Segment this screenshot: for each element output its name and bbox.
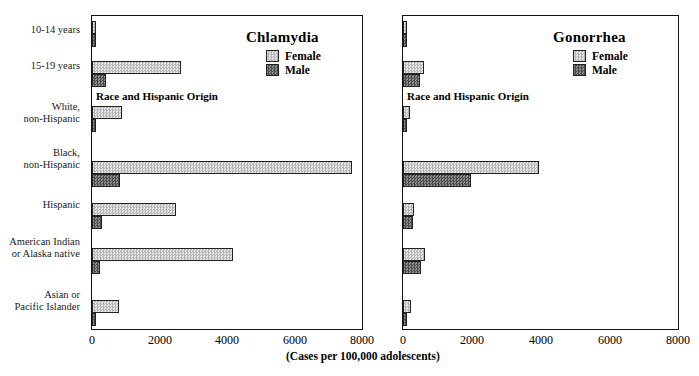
legend-item-male: Male bbox=[266, 64, 321, 76]
legend-label-male: Male bbox=[285, 64, 310, 76]
legend-gonorrhea: Gonorrhea Female Male bbox=[551, 29, 628, 78]
xtick-label: 8000 bbox=[340, 333, 384, 348]
chart-panel-gonorrhea: Race and Hispanic Origin Gonorrhea Femal… bbox=[402, 15, 679, 330]
bar-female bbox=[92, 161, 352, 174]
xtick-label: 0 bbox=[381, 333, 425, 348]
xtick-label: 2000 bbox=[450, 333, 494, 348]
x-axis-caption: (Cases per 100,000 adolescents) bbox=[286, 350, 440, 362]
legend-swatch-female-icon bbox=[266, 50, 279, 62]
category-label: White, non-Hispanic bbox=[23, 101, 80, 124]
bar-male bbox=[403, 119, 407, 132]
bar-female bbox=[92, 248, 233, 261]
bar-male bbox=[92, 119, 96, 132]
bar-male bbox=[92, 313, 96, 326]
group-heading-race: Race and Hispanic Origin bbox=[407, 90, 529, 102]
category-label: Asian or Pacific Islander bbox=[14, 289, 80, 312]
bar-female bbox=[403, 300, 411, 313]
bar-female bbox=[92, 106, 122, 119]
chart-title-chlamydia: Chlamydia bbox=[244, 29, 321, 46]
bar-male bbox=[92, 261, 100, 274]
plot-area-chlamydia bbox=[92, 16, 362, 329]
legend-item-male: Male bbox=[573, 64, 628, 76]
legend-swatch-male-icon bbox=[573, 64, 586, 76]
chart-panel-chlamydia: Race and Hispanic Origin Chlamydia Femal… bbox=[91, 15, 363, 330]
legend-item-female: Female bbox=[573, 50, 628, 62]
plot-area-gonorrhea bbox=[403, 16, 678, 329]
legend-item-female: Female bbox=[266, 50, 321, 62]
legend-label-male: Male bbox=[592, 64, 617, 76]
category-label: 15-19 years bbox=[31, 60, 80, 72]
xtick-label: 6000 bbox=[273, 333, 317, 348]
xtick-label: 4000 bbox=[205, 333, 249, 348]
bar-female bbox=[92, 21, 96, 34]
xtick-label: 4000 bbox=[519, 333, 563, 348]
bar-female bbox=[92, 300, 119, 313]
category-label: 10-14 years bbox=[31, 24, 80, 36]
xtick-label: 6000 bbox=[588, 333, 632, 348]
legend-chlamydia: Chlamydia Female Male bbox=[244, 29, 321, 78]
bar-female bbox=[92, 203, 176, 216]
category-axis-labels: 10-14 years 15-19 years White, non-Hispa… bbox=[0, 14, 86, 328]
bar-male bbox=[92, 74, 106, 87]
legend-swatch-male-icon bbox=[266, 64, 279, 76]
xtick-label: 0 bbox=[70, 333, 114, 348]
bar-male bbox=[403, 216, 413, 229]
chart-title-gonorrhea: Gonorrhea bbox=[551, 29, 628, 46]
legend-label-female: Female bbox=[592, 50, 628, 62]
bar-male bbox=[403, 261, 421, 274]
category-label: American Indian or Alaska native bbox=[9, 236, 80, 259]
xtick-label: 2000 bbox=[138, 333, 182, 348]
bar-male bbox=[92, 174, 120, 187]
bar-male bbox=[403, 34, 407, 47]
xtick-label: 8000 bbox=[656, 333, 699, 348]
bar-female bbox=[403, 106, 410, 119]
bar-male bbox=[92, 216, 102, 229]
legend-swatch-female-icon bbox=[573, 50, 586, 62]
bar-female bbox=[92, 61, 181, 74]
bar-female bbox=[403, 21, 407, 34]
bar-male bbox=[403, 74, 420, 87]
bar-female bbox=[403, 203, 414, 216]
group-heading-race: Race and Hispanic Origin bbox=[96, 90, 218, 102]
figure-root: 10-14 years 15-19 years White, non-Hispa… bbox=[0, 0, 699, 376]
bar-male bbox=[403, 174, 471, 187]
bar-male bbox=[92, 34, 96, 47]
category-label: Black, non-Hispanic bbox=[23, 147, 80, 170]
category-label: Hispanic bbox=[43, 199, 80, 211]
bar-male bbox=[403, 313, 407, 326]
bar-female bbox=[403, 248, 425, 261]
cropped-header-text bbox=[185, 0, 685, 5]
bar-female bbox=[403, 61, 424, 74]
bar-female bbox=[403, 161, 539, 174]
legend-label-female: Female bbox=[285, 50, 321, 62]
